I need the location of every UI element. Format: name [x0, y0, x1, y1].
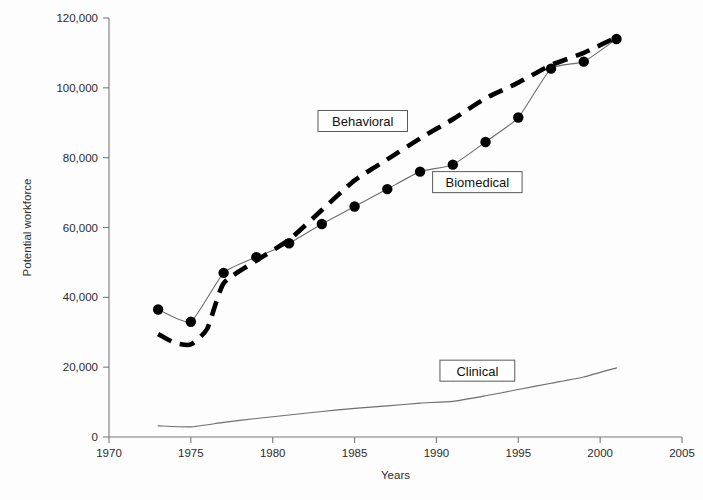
line-chart-svg: 020,00040,00060,00080,000100,000120,000 … — [0, 0, 703, 500]
data-point-marker — [382, 184, 392, 194]
series-line-clinical — [158, 368, 616, 427]
x-tick-label: 1990 — [424, 447, 450, 459]
x-tick-label: 2005 — [669, 447, 695, 459]
series-clinical — [158, 368, 616, 427]
series-labels-layer: BehavioralBiomedicalClinical — [318, 111, 522, 382]
data-point-marker — [579, 56, 589, 66]
series-label-text: Biomedical — [446, 175, 510, 190]
series-layer — [153, 34, 622, 427]
y-tick-label: 80,000 — [63, 152, 98, 164]
data-point-marker — [611, 34, 621, 44]
y-tick-label: 60,000 — [63, 222, 98, 234]
y-tick-label: 20,000 — [63, 361, 98, 373]
data-point-marker — [317, 219, 327, 229]
y-tick-label: 100,000 — [56, 82, 98, 94]
data-point-marker — [480, 137, 490, 147]
y-axis: 020,00040,00060,00080,000100,000120,000 — [56, 12, 109, 443]
data-point-marker — [349, 201, 359, 211]
data-point-marker — [153, 304, 163, 314]
y-tick-label: 120,000 — [56, 12, 98, 24]
x-axis: 19701975198019851990199520002005 — [96, 437, 695, 459]
x-tick-label: 1970 — [96, 447, 122, 459]
series-line-biomedical — [158, 39, 616, 322]
x-axis-title: Years — [381, 469, 410, 481]
series-label-text: Behavioral — [332, 114, 394, 129]
y-axis-title: Potential workforce — [21, 179, 33, 277]
series-label-behavioral: Behavioral — [318, 111, 408, 132]
series-label-biomedical: Biomedical — [433, 172, 523, 193]
x-tick-label: 1980 — [260, 447, 286, 459]
x-tick-label: 2000 — [587, 447, 613, 459]
series-label-clinical: Clinical — [440, 360, 515, 381]
x-tick-label: 1995 — [505, 447, 531, 459]
x-tick-label: 1985 — [342, 447, 368, 459]
data-point-marker — [218, 268, 228, 278]
data-point-marker — [513, 112, 523, 122]
y-tick-label: 40,000 — [63, 291, 98, 303]
series-label-text: Clinical — [456, 364, 498, 379]
y-tick-label: 0 — [92, 431, 98, 443]
x-tick-label: 1975 — [178, 447, 204, 459]
data-point-marker — [448, 159, 458, 169]
data-point-marker — [415, 166, 425, 176]
chart-container: 020,00040,00060,00080,000100,000120,000 … — [0, 0, 703, 500]
data-point-marker — [186, 317, 196, 327]
